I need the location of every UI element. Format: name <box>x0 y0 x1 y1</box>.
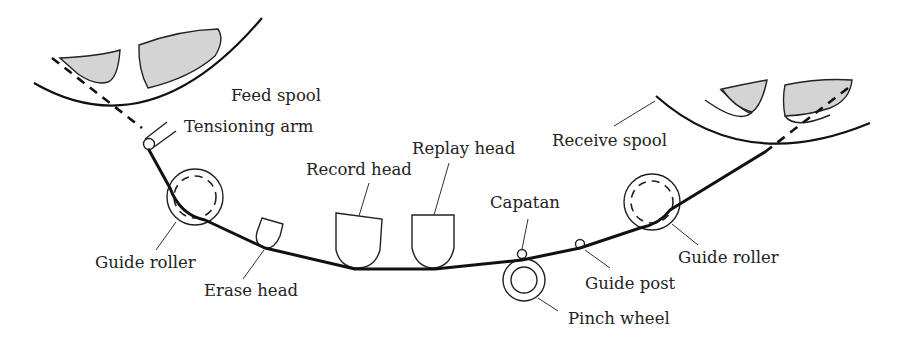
record-head <box>336 213 382 268</box>
feed-spool <box>34 18 262 128</box>
erase-head <box>256 218 283 248</box>
feed-spool-label: Feed spool <box>231 86 321 105</box>
guide-roller-left-label: Guide roller <box>95 253 196 272</box>
receive-spool <box>656 80 870 152</box>
guide-post-label: Guide post <box>585 274 676 293</box>
tensioning-arm <box>144 122 177 150</box>
pinch-wheel <box>503 259 545 301</box>
replay-head <box>412 215 454 268</box>
tensioning-arm-label: Tensioning arm <box>184 117 314 136</box>
record-head-label: Record head <box>306 160 412 179</box>
guide-roller-right <box>624 174 680 230</box>
capstan <box>518 250 527 259</box>
tape-transport-diagram: Feed spool Tensioning arm Guide roller E… <box>0 0 901 355</box>
erase-head-label: Erase head <box>204 281 298 300</box>
pinch-wheel-label: Pinch wheel <box>568 309 670 328</box>
tape-path <box>149 150 765 269</box>
capstan-label: Capatan <box>490 193 560 212</box>
replay-head-label: Replay head <box>412 139 516 158</box>
receive-spool-label: Receive spool <box>552 131 667 150</box>
guide-roller-right-label: Guide roller <box>678 248 779 267</box>
